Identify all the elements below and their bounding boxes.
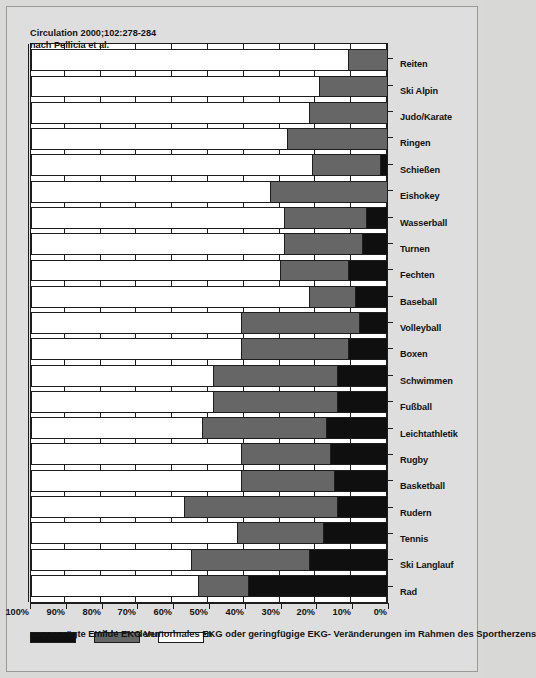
bar-segment-severe <box>348 338 387 360</box>
value-tick-label: 90% <box>46 607 64 617</box>
category-label: Rad <box>400 587 417 597</box>
value-tick-label: 60% <box>154 607 172 617</box>
tick-mark <box>388 559 393 560</box>
bar-segment-normal <box>31 260 280 282</box>
gridline <box>28 44 29 602</box>
bar-segment-mild <box>284 207 366 229</box>
bar-column[interactable] <box>31 76 387 98</box>
bar-segment-severe <box>330 444 387 466</box>
value-tick-label: 30% <box>261 607 279 617</box>
bar-segment-normal <box>31 338 241 360</box>
category-label-holder: Basketball <box>398 470 468 492</box>
tick-mark <box>388 586 393 587</box>
value-tick-label: 0% <box>374 607 387 617</box>
category-tick <box>388 180 398 202</box>
value-tick-label: 40% <box>225 607 243 617</box>
bar-column[interactable] <box>31 444 387 466</box>
bar-segment-normal <box>31 549 191 571</box>
category-label-holder: Judo/Karate <box>398 101 468 123</box>
category-label: Turnen <box>400 244 430 254</box>
bar-column[interactable] <box>31 417 387 439</box>
bar-column[interactable] <box>31 575 387 597</box>
bar-column[interactable] <box>31 312 387 334</box>
bar-column[interactable] <box>31 233 387 255</box>
category-label-holder: Tennis <box>398 523 468 545</box>
bar-column[interactable] <box>31 365 387 387</box>
category-label-holder: Ringen <box>398 127 468 149</box>
bar-segment-mild <box>270 181 387 203</box>
bar-segment-mild <box>284 233 362 255</box>
bar-segment-mild <box>241 312 358 334</box>
category-label: Leichtathletik <box>400 429 458 439</box>
tick-mark <box>388 111 393 112</box>
tick-mark <box>388 348 393 349</box>
bar-segment-mild <box>191 549 308 571</box>
bar-column[interactable] <box>31 260 387 282</box>
bar-column[interactable] <box>31 49 387 71</box>
tick-mark <box>388 322 393 323</box>
category-label: Eishokey <box>400 191 440 201</box>
tick-mark <box>388 190 393 191</box>
bar-column[interactable] <box>31 128 387 150</box>
bar-column[interactable] <box>31 549 387 571</box>
category-label: Ringen <box>400 138 431 148</box>
value-tick-label: 20% <box>297 607 315 617</box>
category-label-holder: Wasserball <box>398 207 468 229</box>
chart-paper: 0%10%20%30%40%50%60%70%80%90%100% RadSki… <box>6 6 478 672</box>
bar-column[interactable] <box>31 154 387 176</box>
value-tick-label: 80% <box>82 607 100 617</box>
tick-mark <box>388 507 393 508</box>
tick-mark <box>388 58 393 59</box>
category-label-holder: Rugby <box>398 444 468 466</box>
value-tick <box>102 603 103 609</box>
bar-column[interactable] <box>31 181 387 203</box>
category-axis-labels: RadSki LanglaufTennisRudernBasketballRug… <box>398 43 468 603</box>
bar-segment-mild <box>319 76 387 98</box>
category-tick <box>388 286 398 308</box>
category-tick <box>388 312 398 334</box>
bar-segment-mild <box>213 391 338 413</box>
tick-mark <box>388 269 393 270</box>
stacked-bar-chart: 0%10%20%30%40%50%60%70%80%90%100% RadSki… <box>16 19 468 659</box>
tick-mark <box>388 533 393 534</box>
bar-segment-normal <box>31 286 309 308</box>
value-axis: 0%10%20%30%40%50%60%70%80%90%100% <box>30 603 388 619</box>
bar-column[interactable] <box>31 522 387 544</box>
bar-column[interactable] <box>31 207 387 229</box>
category-tick <box>388 101 398 123</box>
bar-segment-severe <box>248 575 387 597</box>
category-tick <box>388 127 398 149</box>
bar-segment-normal <box>31 233 284 255</box>
category-label: Judo/Karate <box>400 112 452 122</box>
category-label-holder: Eishokey <box>398 180 468 202</box>
category-tick <box>388 549 398 571</box>
category-tick <box>388 576 398 598</box>
bar-column[interactable] <box>31 496 387 518</box>
category-tick <box>388 444 398 466</box>
bar-segment-normal <box>31 496 184 518</box>
bar-segment-mild <box>241 338 348 360</box>
tick-mark <box>388 243 393 244</box>
rotated-chart-wrapper: 0%10%20%30%40%50%60%70%80%90%100% RadSki… <box>16 19 468 659</box>
tick-mark <box>388 85 393 86</box>
bar-column[interactable] <box>31 102 387 124</box>
bar-segment-severe <box>380 154 387 176</box>
value-tick-label: 100% <box>6 607 30 617</box>
tick-mark <box>388 454 393 455</box>
category-tick <box>388 75 398 97</box>
value-tick <box>352 603 353 609</box>
bar-column[interactable] <box>31 286 387 308</box>
bar-segment-normal <box>31 365 213 387</box>
bar-segment-mild <box>202 417 327 439</box>
category-label-holder: Leichtathletik <box>398 418 468 440</box>
category-label: Basketball <box>400 481 445 491</box>
category-label: Schwimmen <box>400 376 453 386</box>
bar-segment-mild <box>241 444 330 466</box>
bar-segment-mild <box>237 522 322 544</box>
bar-column[interactable] <box>31 338 387 360</box>
bar-column[interactable] <box>31 391 387 413</box>
bar-segment-normal <box>31 154 312 176</box>
tick-mark <box>388 401 393 402</box>
bar-column[interactable] <box>31 470 387 492</box>
